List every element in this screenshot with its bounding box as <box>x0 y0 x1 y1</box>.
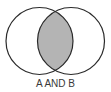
venn-diagram: A AND B <box>0 0 111 92</box>
diagram-label: A AND B <box>0 78 111 90</box>
